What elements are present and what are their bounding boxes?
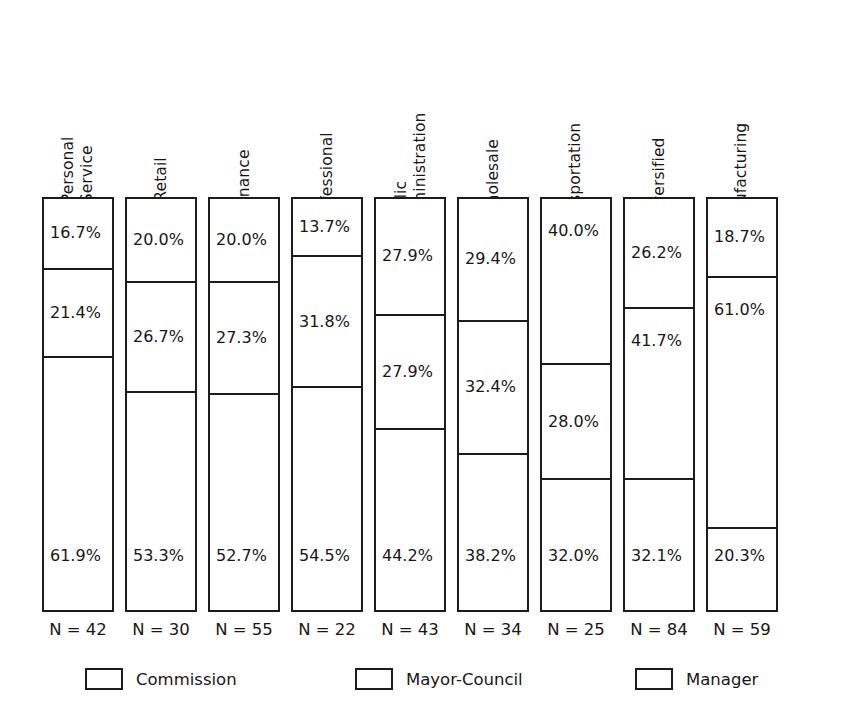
stacked-bar: 26.2%41.7%32.1%	[623, 197, 695, 612]
bar-segment: 20.3%	[708, 527, 776, 610]
bar-segment: 32.4%	[459, 320, 527, 453]
bar-segment: 20.0%	[127, 199, 195, 281]
bar-segment: 61.9%	[44, 356, 112, 610]
column-category-label-text: Retail	[152, 157, 171, 201]
bar-segment: 20.0%	[210, 199, 278, 281]
bar-segment: 52.7%	[210, 393, 278, 610]
sample-size-label: N = 34	[451, 620, 535, 639]
stacked-bar: 27.9%27.9%44.2%	[374, 197, 446, 612]
stacked-bar: 20.0%26.7%53.3%	[125, 197, 197, 612]
bar-segment: 27.9%	[376, 314, 444, 429]
segment-value-label: 31.8%	[299, 314, 350, 330]
stacked-bar: 20.0%27.3%52.7%	[208, 197, 280, 612]
legend-label: Commission	[136, 670, 237, 689]
sample-size-label: N = 43	[368, 620, 452, 639]
stacked-bar: 18.7%61.0%20.3%	[706, 197, 778, 612]
stacked-bar: 40.0%28.0%32.0%	[540, 197, 612, 612]
legend-item[interactable]: Manager	[635, 664, 758, 694]
stacked-bar: 13.7%31.8%54.5%	[291, 197, 363, 612]
legend-label: Mayor-Council	[406, 670, 523, 689]
bar-segment: 18.7%	[708, 199, 776, 276]
segment-value-label: 32.1%	[631, 548, 682, 564]
category-label-line-1: Retail	[152, 157, 170, 201]
chart-column: PublicAdministration27.9%27.9%44.2%N = 4…	[374, 197, 446, 612]
sample-size-label: N = 22	[285, 620, 369, 639]
chart-column: Retail20.0%26.7%53.3%N = 30	[125, 197, 197, 612]
column-category-label: Professional	[291, 29, 363, 189]
bar-segment: 54.5%	[293, 386, 361, 610]
segment-value-label: 26.2%	[631, 245, 682, 261]
chart-column: Wholesale29.4%32.4%38.2%N = 34	[457, 197, 529, 612]
stacked-bar: 29.4%32.4%38.2%	[457, 197, 529, 612]
bar-segment: 21.4%	[44, 268, 112, 356]
sample-size-label: N = 84	[617, 620, 701, 639]
column-category-label: Diversified	[623, 29, 695, 189]
sample-size-label: N = 59	[700, 620, 784, 639]
column-category-label: Manufacturing	[706, 29, 778, 189]
category-label-line-2: Service	[78, 137, 97, 204]
segment-value-label: 54.5%	[299, 548, 350, 564]
segment-value-label: 32.4%	[465, 379, 516, 395]
segment-value-label: 27.3%	[216, 330, 267, 346]
segment-value-label: 27.9%	[382, 364, 433, 380]
segment-value-label: 18.7%	[714, 229, 765, 245]
bar-segment: 29.4%	[459, 199, 527, 320]
chart-column: Diversified26.2%41.7%32.1%N = 84	[623, 197, 695, 612]
bar-segment: 28.0%	[542, 363, 610, 478]
bar-segment: 38.2%	[459, 453, 527, 610]
segment-value-label: 52.7%	[216, 548, 267, 564]
column-category-label: Finance	[208, 29, 280, 189]
segment-value-label: 29.4%	[465, 251, 516, 267]
column-category-label: Wholesale	[457, 29, 529, 189]
chart-column: PersonalService16.7%21.4%61.9%N = 42	[42, 197, 114, 612]
segment-value-label: 28.0%	[548, 414, 599, 430]
segment-value-label: 20.3%	[714, 548, 765, 564]
bar-segment: 26.7%	[127, 281, 195, 391]
chart-legend: CommissionMayor-CouncilManager	[0, 660, 844, 700]
sample-size-label: N = 55	[202, 620, 286, 639]
bar-segment: 41.7%	[625, 307, 693, 478]
legend-swatch-icon	[635, 668, 673, 690]
segment-value-label: 41.7%	[631, 333, 682, 349]
segment-value-label: 20.0%	[133, 232, 184, 248]
column-category-label: Transportation	[540, 29, 612, 189]
legend-swatch-icon	[355, 668, 393, 690]
bar-segment: 61.0%	[708, 276, 776, 527]
stacked-bar: 16.7%21.4%61.9%	[42, 197, 114, 612]
legend-item[interactable]: Mayor-Council	[355, 664, 523, 694]
chart-column: Manufacturing18.7%61.0%20.3%N = 59	[706, 197, 778, 612]
sample-size-label: N = 30	[119, 620, 203, 639]
bar-segment: 26.2%	[625, 199, 693, 307]
segment-value-label: 27.9%	[382, 248, 433, 264]
category-label-line-1: Personal	[59, 137, 77, 204]
segment-value-label: 61.0%	[714, 302, 765, 318]
segment-value-label: 61.9%	[50, 548, 101, 564]
bar-segment: 32.0%	[542, 478, 610, 610]
bar-segment: 40.0%	[542, 199, 610, 363]
segment-value-label: 38.2%	[465, 548, 516, 564]
column-category-label: PersonalService	[42, 29, 114, 189]
sample-size-label: N = 25	[534, 620, 618, 639]
bar-segment: 31.8%	[293, 255, 361, 386]
bar-segment: 32.1%	[625, 478, 693, 610]
segment-value-label: 53.3%	[133, 548, 184, 564]
bar-segment: 27.3%	[210, 281, 278, 393]
chart-column: Professional13.7%31.8%54.5%N = 22	[291, 197, 363, 612]
column-category-label-text: PersonalService	[59, 137, 97, 204]
segment-value-label: 40.0%	[548, 223, 599, 239]
bar-segment: 27.9%	[376, 199, 444, 314]
legend-item[interactable]: Commission	[85, 664, 237, 694]
segment-value-label: 44.2%	[382, 548, 433, 564]
segment-value-label: 20.0%	[216, 232, 267, 248]
stacked-bar-chart: PersonalService16.7%21.4%61.9%N = 42Reta…	[0, 0, 844, 726]
chart-column: Transportation40.0%28.0%32.0%N = 25	[540, 197, 612, 612]
bar-segment: 13.7%	[293, 199, 361, 255]
segment-value-label: 32.0%	[548, 548, 599, 564]
column-category-label: Retail	[125, 29, 197, 189]
segment-value-label: 16.7%	[50, 225, 101, 241]
column-category-label: PublicAdministration	[374, 29, 446, 189]
segment-value-label: 13.7%	[299, 219, 350, 235]
bar-segment: 16.7%	[44, 199, 112, 268]
segment-value-label: 26.7%	[133, 329, 184, 345]
chart-column: Finance20.0%27.3%52.7%N = 55	[208, 197, 280, 612]
